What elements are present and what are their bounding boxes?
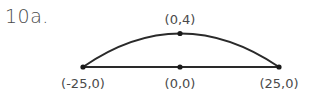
apex-point-dot bbox=[177, 31, 182, 36]
right-endpoint-dot bbox=[276, 64, 281, 69]
arch-diagram: (0,4) (-25,0) (0,0) (25,0) bbox=[0, 0, 309, 111]
left-endpoint-label: (-25,0) bbox=[61, 76, 105, 91]
arch-curve bbox=[83, 34, 279, 68]
center-point-label: (0,0) bbox=[165, 76, 196, 91]
right-endpoint-label: (25,0) bbox=[259, 76, 298, 91]
apex-point-label: (0,4) bbox=[165, 12, 196, 27]
left-endpoint-dot bbox=[80, 64, 85, 69]
center-point-dot bbox=[177, 64, 182, 69]
